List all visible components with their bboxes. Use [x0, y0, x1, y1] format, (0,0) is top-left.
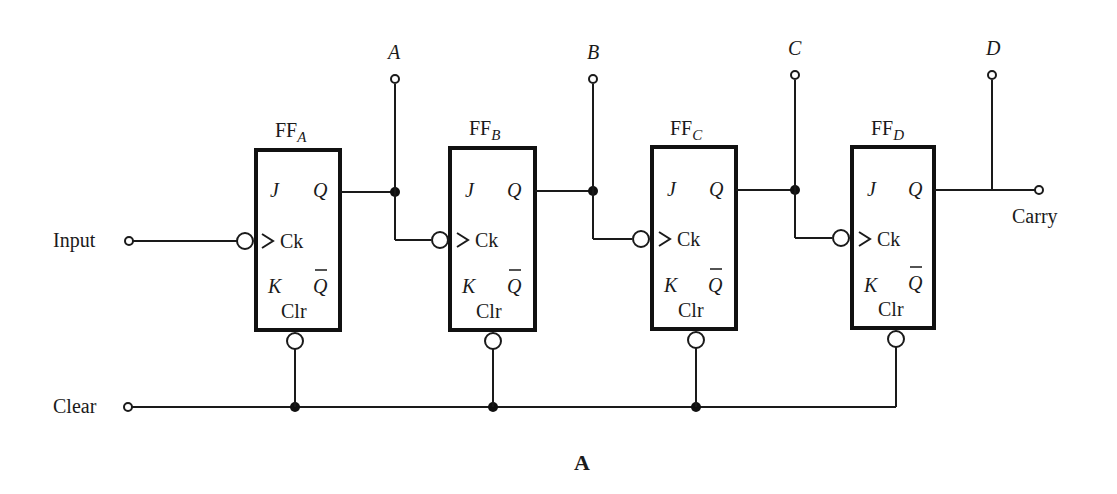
pin-qbar: Q — [708, 274, 723, 296]
clear-inversion-bubble — [688, 332, 704, 348]
clock-inversion-bubble — [432, 232, 448, 248]
output-label-d: D — [985, 37, 1001, 59]
flip-flop-b: FFB J Q Ck K Q Clr B — [432, 41, 632, 407]
pin-clr: Clr — [878, 298, 904, 320]
input-terminal — [125, 237, 133, 245]
clock-inversion-bubble — [633, 231, 649, 247]
input-signal: Input — [53, 229, 237, 252]
clear-inversion-bubble — [888, 331, 904, 347]
figure-caption: A — [574, 450, 590, 475]
clear-bus: Clear — [53, 395, 896, 417]
clear-inversion-bubble — [287, 333, 303, 349]
pin-qbar: Q — [313, 275, 328, 297]
pin-j: J — [465, 179, 475, 201]
pin-k: K — [267, 275, 283, 297]
pin-clr: Clr — [476, 300, 502, 322]
pin-qbar: Q — [507, 275, 522, 297]
pin-k: K — [863, 274, 879, 296]
pin-ck: Ck — [280, 230, 303, 252]
flip-flop-c: FFC J Q Ck K Q Clr C — [633, 37, 832, 407]
pin-ck: Ck — [475, 229, 498, 251]
ff-name: FFC — [670, 117, 703, 143]
output-label-b: B — [587, 41, 599, 63]
pin-ck: Ck — [677, 228, 700, 250]
pin-k: K — [663, 274, 679, 296]
output-terminal-b — [589, 75, 597, 83]
pin-k: K — [461, 275, 477, 297]
pin-q: Q — [908, 178, 923, 200]
clear-inversion-bubble — [485, 333, 501, 349]
ff-name: FFA — [275, 119, 307, 145]
clock-inversion-bubble — [237, 233, 253, 249]
pin-j: J — [667, 178, 677, 200]
flip-flop-d: FFD J Q Ck K Q Clr D Carry — [833, 37, 1058, 407]
input-label: Input — [53, 229, 96, 252]
ff-name: FFB — [469, 117, 500, 143]
pin-j: J — [867, 178, 877, 200]
output-terminal-d — [988, 71, 996, 79]
pin-clr: Clr — [678, 299, 704, 321]
pin-j: J — [270, 179, 280, 201]
ripple-counter-diagram: Input Clear FFA J Q Ck K Q Clr A FF — [0, 0, 1117, 494]
pin-clr: Clr — [281, 300, 307, 322]
carry-terminal — [1035, 186, 1043, 194]
pin-q: Q — [313, 179, 328, 201]
flip-flop-a: FFA J Q Ck K Q Clr A — [237, 41, 431, 407]
pin-q: Q — [709, 178, 724, 200]
carry-label: Carry — [1012, 205, 1058, 228]
clear-terminal — [124, 403, 132, 411]
output-terminal-a — [391, 75, 399, 83]
ff-name: FFD — [871, 117, 904, 143]
pin-q: Q — [507, 179, 522, 201]
pin-qbar: Q — [908, 272, 923, 294]
clear-label: Clear — [53, 395, 97, 417]
output-label-c: C — [788, 37, 802, 59]
pin-ck: Ck — [877, 228, 900, 250]
clock-inversion-bubble — [833, 230, 849, 246]
output-terminal-c — [791, 71, 799, 79]
output-label-a: A — [386, 41, 401, 63]
